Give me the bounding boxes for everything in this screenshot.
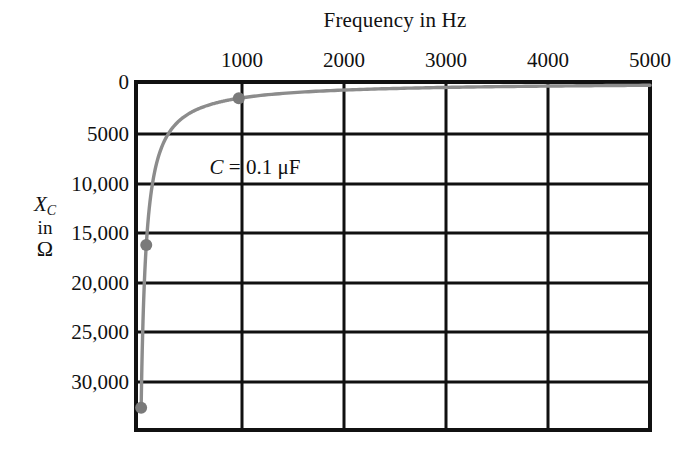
y-tick-label-20000: 20,000 <box>9 271 129 296</box>
y-tick-label-5000: 5000 <box>9 122 129 147</box>
annotation-value: 0.1 μF <box>246 155 300 179</box>
annotation-equals: = <box>229 155 241 179</box>
y-tick-label-25000: 25,000 <box>9 320 129 345</box>
x-tick-label-5000: 5000 <box>605 48 681 73</box>
data-point-marker <box>233 92 245 104</box>
capacitance-annotation: C = 0.1 μF <box>195 155 315 180</box>
data-point-marker <box>140 239 152 251</box>
x-tick-label-4000: 4000 <box>503 48 593 73</box>
annotation-symbol-c: C <box>210 155 224 179</box>
y-tick-label-0: 0 <box>9 70 129 95</box>
capacitive-reactance-chart: Frequency in Hz XC in Ω 1000 2000 3000 4… <box>0 0 681 451</box>
y-axis-symbol-c: C <box>47 203 56 218</box>
y-tick-label-15000: 15,000 <box>9 221 129 246</box>
y-tick-label-30000: 30,000 <box>9 370 129 395</box>
data-point-markers <box>135 92 245 414</box>
data-point-marker <box>135 402 147 414</box>
x-tick-label-1000: 1000 <box>197 48 287 73</box>
x-tick-label-3000: 3000 <box>401 48 491 73</box>
chart-title: Frequency in Hz <box>240 8 550 33</box>
grid-lines <box>136 82 650 430</box>
x-tick-label-2000: 2000 <box>299 48 389 73</box>
y-tick-label-10000: 10,000 <box>9 172 129 197</box>
